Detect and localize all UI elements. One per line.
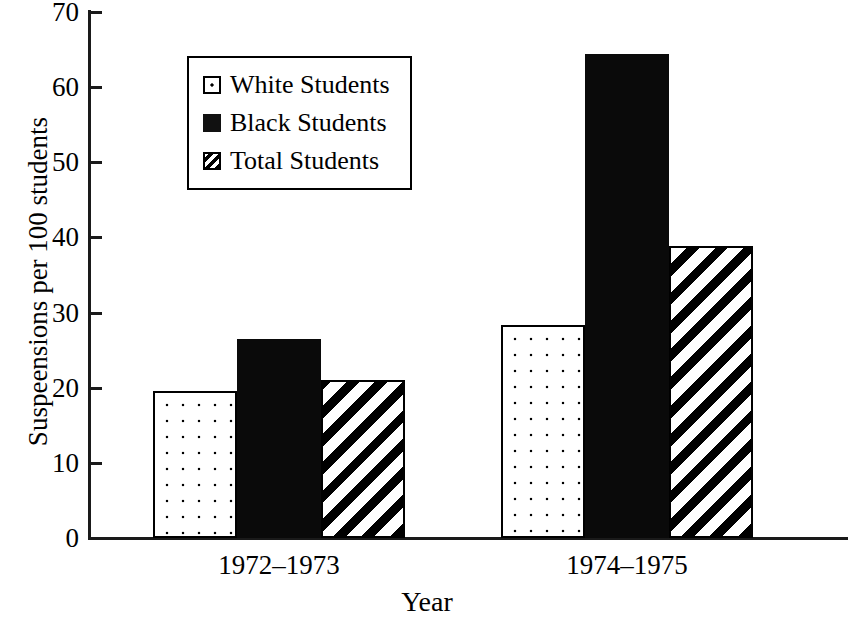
y-axis-tick-mark <box>91 236 102 239</box>
y-axis-tick-mark <box>91 312 102 315</box>
y-axis-tick-label: 60 <box>15 74 79 101</box>
x-axis-category-label: 1974–1975 <box>566 552 688 579</box>
y-axis-tick-label: 50 <box>15 149 79 176</box>
bar-total-students <box>321 380 405 538</box>
y-axis-tick-label: 30 <box>15 299 79 326</box>
black-solid-swatch <box>203 114 221 132</box>
y-axis-tick-mark <box>91 161 102 164</box>
legend-item-label: Total Students <box>230 148 379 174</box>
x-axis-title: Year <box>0 588 854 616</box>
y-axis-tick-mark <box>91 387 102 390</box>
y-axis-tick-label: 40 <box>15 224 79 251</box>
bar-chart: Suspeensions per 100 students 0102030405… <box>0 0 854 625</box>
y-axis-tick-mark <box>91 462 102 465</box>
legend-item-label: Black Students <box>230 110 387 136</box>
y-axis-tick-mark <box>91 86 102 89</box>
y-axis-tick-label: 0 <box>15 525 79 552</box>
white-dotted-swatch <box>203 76 221 94</box>
x-axis-category-label: 1972–1973 <box>218 552 340 579</box>
bar-black-students <box>237 339 321 538</box>
legend-item-label: White Students <box>230 72 390 98</box>
bar-total-students <box>669 246 753 538</box>
y-axis-tick-mark <box>91 11 102 14</box>
bar-black-students <box>585 54 669 538</box>
bar-white-students <box>501 325 585 538</box>
bar-white-students <box>153 391 237 538</box>
legend-item: White Students <box>203 66 390 104</box>
y-axis-tick-label: 70 <box>15 0 79 26</box>
legend-item: Black Students <box>203 104 390 142</box>
legend-item: Total Students <box>203 142 390 180</box>
hatched-swatch <box>203 152 221 170</box>
y-axis-tick-label: 10 <box>15 449 79 476</box>
chart-legend: White StudentsBlack StudentsTotal Studen… <box>187 56 412 190</box>
y-axis-tick-label: 20 <box>15 374 79 401</box>
y-axis-tick-labels: 010203040506070 <box>5 0 79 625</box>
bar-group <box>501 10 753 538</box>
